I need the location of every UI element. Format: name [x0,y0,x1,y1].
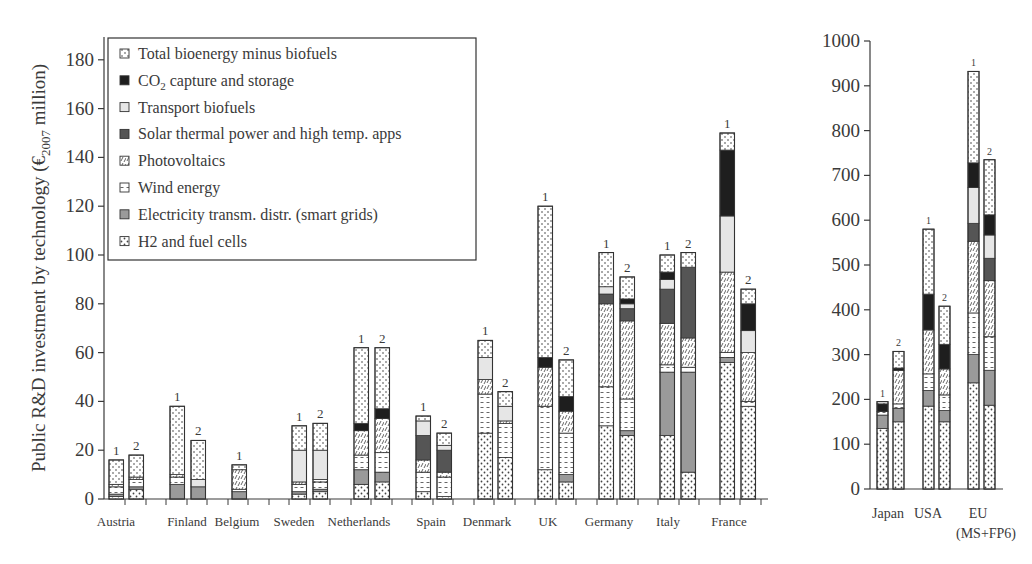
bar-eu-2: 2 [984,146,995,489]
segment-tb [292,450,307,482]
segment-pv [984,281,995,337]
segment-wind [416,472,431,492]
segment-grid [620,431,635,436]
segment-ccs [720,150,735,216]
segment-tb [478,357,493,379]
segment-grid [170,484,185,499]
segment-bio [354,348,369,424]
segment-h2 [939,422,950,489]
bar-number-label: 2 [563,343,570,358]
bar-denmark-1: 1 [478,323,493,499]
segment-h2 [498,458,513,499]
segment-wind [984,337,995,371]
segment-h2 [375,482,390,499]
segment-tb [416,421,431,436]
segment-grid [660,372,675,435]
bar-japan-2: 2 [893,337,904,489]
bar-finland-1: 1 [170,389,185,499]
category-label-spain: Spain [416,514,446,529]
bar-usa-1: 1 [923,215,934,489]
segment-h2 [877,429,888,489]
segment-ccs [877,404,888,412]
y-axis-title: Public R&D investment by technology (€20… [28,64,53,472]
bar-number-label: 1 [664,238,671,253]
bar-number-label: 2 [317,406,324,421]
segment-st [620,309,635,321]
y-tick-label: 40 [75,390,94,411]
bar-germany-1: 1 [599,236,614,499]
legend-swatch-ccs [120,76,129,85]
legend-label-st: Solar thermal power and high temp. apps [138,125,402,143]
segment-grid [720,357,735,362]
bar-number-label: 1 [603,236,610,251]
bar-number-label: 1 [236,448,243,463]
segment-ccs [538,357,553,367]
right-chart: 01002003004005006007008009001000121212Ja… [822,30,1016,542]
segment-ccs [559,397,574,412]
segment-h2 [559,482,574,499]
segment-grid [354,470,369,485]
bar-number-label: 2 [745,272,752,287]
segment-tb [437,445,452,450]
segment-grid [923,390,934,406]
segment-bio [478,340,493,357]
segment-pv [437,472,452,477]
y-tick-label: 140 [66,146,95,167]
bar-sweden-1: 1 [292,409,307,499]
category-label-austria: Austria [97,514,136,529]
segment-wind [559,433,574,474]
category-label-france: France [711,514,747,529]
y-tick-label: 60 [75,342,94,363]
bar-italy-1: 1 [660,238,675,499]
segment-wind [313,482,328,489]
segment-bio [893,351,904,368]
segment-h2 [660,436,675,499]
bar-number-label: 1 [358,331,365,346]
segment-grid [375,472,390,482]
segment-wind [939,395,950,411]
y-tick-label: 0 [85,488,95,509]
y-tick-label: 180 [66,49,95,70]
bar-number-label: 1 [971,57,976,68]
category-label-japan: Japan [872,506,904,521]
y-tick-label: 900 [832,75,861,96]
bar-number-label: 2 [379,331,386,346]
bar-number-label: 2 [195,423,202,438]
bar-finland-2: 2 [191,423,206,499]
segment-tb [741,331,756,353]
y-tick-label: 100 [66,244,95,265]
bar-belgium-1: 1 [232,448,247,499]
segment-bio [620,277,635,299]
segment-bio [109,460,124,484]
bar-number-label: 2 [685,236,692,251]
legend-swatch-pv [120,156,129,165]
segment-wind [437,477,452,497]
segment-bio [660,255,675,272]
segment-wind [720,353,735,358]
legend-label-tb: Transport biofuels [138,99,255,117]
legend-swatch-bio [120,49,129,58]
segment-pv [741,353,756,402]
bar-number-label: 1 [724,116,731,131]
bar-number-label: 2 [624,260,631,275]
category-label-germany: Germany [585,514,634,529]
segment-h2 [923,406,934,489]
segment-bio [416,416,431,421]
segment-bio [923,229,934,294]
segment-wind [620,399,635,431]
segment-wind [923,374,934,391]
segment-wind [354,455,369,470]
segment-tb [191,479,206,486]
segment-pv [559,411,574,433]
segment-pv [720,272,735,353]
bar-number-label: 1 [296,409,303,424]
segment-h2 [313,492,328,499]
category-label-denmark: Denmark [463,514,512,529]
bar-france-2: 2 [741,272,756,499]
segment-h2 [984,405,995,489]
segment-bio [741,289,756,304]
segment-wind [375,453,390,473]
segment-wind [109,487,124,494]
bar-number-label: 1 [880,388,885,399]
y-tick-label: 600 [832,209,861,230]
